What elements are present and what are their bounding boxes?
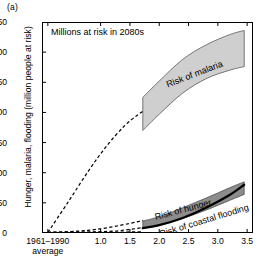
y-tick-label: 100 — [0, 167, 7, 177]
series-labels: Risk of malariaRisk of hungerRisk of coa… — [154, 59, 250, 233]
y-axis-title: Hunger, malaria, flooding (million peopl… — [23, 17, 33, 217]
y-tick-label: 150 — [0, 137, 7, 147]
chart-svg: Risk of malariaRisk of hungerRisk of coa… — [42, 22, 253, 233]
y-tick-label: 300 — [0, 47, 7, 57]
y-tick-label: 0 — [0, 228, 7, 238]
plot-area: Risk of malariaRisk of hungerRisk of coa… — [42, 22, 253, 233]
y-tick-label: 350 — [0, 17, 7, 27]
figure-panel-a: (a) Hunger, malaria, flooding (million p… — [0, 0, 264, 268]
x-tick-label: 1961–1990 — [18, 236, 78, 246]
y-tick-label: 200 — [0, 107, 7, 117]
panel-label: (a) — [7, 2, 18, 12]
y-tick-label: 50 — [0, 197, 7, 207]
chart-annotation: Millions at risk in 2080s — [51, 27, 144, 37]
x-tick-label: 3.5 — [217, 236, 264, 246]
y-tick-label: 250 — [0, 77, 7, 87]
x-tick-sublabel: average — [18, 246, 78, 256]
